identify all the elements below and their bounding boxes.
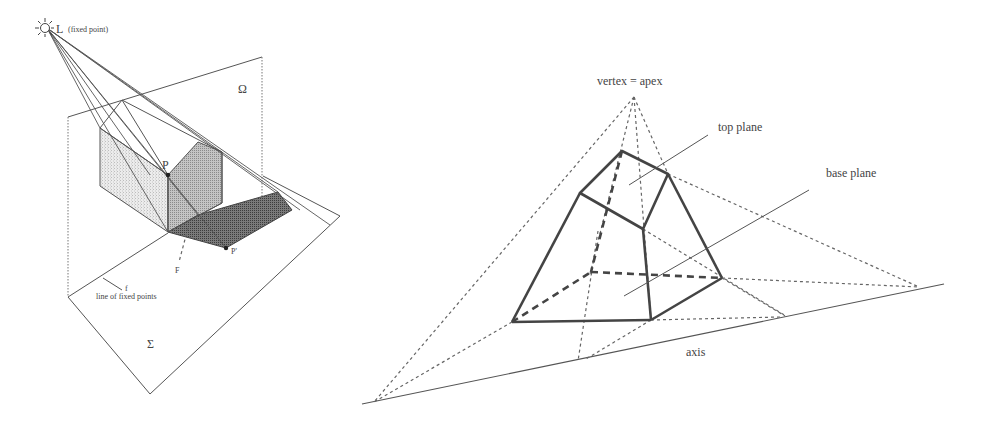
apex-rays	[374, 97, 668, 402]
diagram-canvas: L (fixed point) Ω Σ P P' F f line of fix…	[0, 0, 984, 426]
base-plane-label: base plane	[826, 166, 876, 180]
light-caption: (fixed point)	[68, 25, 109, 34]
point-p-prime	[224, 246, 228, 250]
plane-omega-label: Ω	[238, 82, 247, 96]
sun-icon	[35, 18, 54, 37]
axis-line	[362, 284, 944, 404]
leader-f	[103, 278, 122, 290]
plane-sigma-label: Σ	[147, 337, 154, 351]
point-p	[166, 173, 170, 177]
top-plane-label: top plane	[718, 120, 762, 134]
frustum-figure: vertex = apex top plane base plane axis	[362, 74, 944, 404]
line-f-caption: line of fixed points	[96, 292, 157, 301]
prism-left-face	[100, 128, 168, 232]
light-label: L	[56, 22, 63, 36]
point-p-prime-label: P'	[231, 247, 237, 256]
point-p-label: P	[162, 158, 169, 172]
axis-label: axis	[686, 345, 706, 359]
extension-lines	[374, 174, 919, 402]
central-projection-figure: L (fixed point) Ω Σ P P' F f line of fix…	[35, 18, 340, 394]
vertex-label: vertex = apex	[597, 74, 662, 88]
F-label: F	[175, 266, 180, 275]
frustum-edges	[512, 151, 722, 322]
